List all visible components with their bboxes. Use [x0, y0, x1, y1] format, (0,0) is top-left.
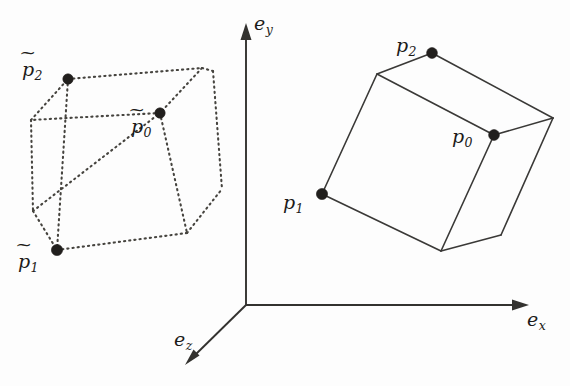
dashed-edge-top-left — [31, 79, 68, 120]
solid-edge-vert-mid — [441, 135, 494, 251]
solid-edge-top-front — [432, 53, 553, 118]
solid-edge-top-back — [377, 74, 494, 135]
point-label-p0-tilde-sub: 0 — [144, 125, 152, 140]
point-label-p2-tilde-sub: 2 — [35, 68, 43, 83]
point-label-p1-base: p — [283, 191, 295, 213]
point-label-p1-tilde-sub: 1 — [31, 260, 39, 275]
point-label-p2: p2 — [396, 36, 417, 59]
solid-edge-vert-left — [322, 74, 377, 194]
axis-label-ez-base: e — [174, 328, 185, 350]
axis-group — [185, 23, 529, 365]
point-label-p2-sub: 2 — [409, 44, 417, 59]
point-label-p2-tilde: p2 — [22, 60, 43, 83]
vertex-dot-p0-tilde — [155, 108, 165, 118]
original-cube-edges — [31, 68, 222, 256]
dashed-edge-vert-far-right — [213, 71, 222, 189]
point-label-p0-tilde-base: p — [131, 115, 143, 137]
vertex-dot-p2-tilde — [63, 74, 73, 84]
axis-label-ey-base: e — [254, 12, 265, 34]
axis-label-ey-sub: y — [266, 22, 273, 37]
axis-ez-line — [193, 305, 246, 357]
transformed-cube-edges — [316, 48, 553, 251]
point-label-p0-sub: 0 — [465, 135, 473, 150]
axis-label-ex: ex — [527, 310, 546, 332]
point-label-p1: p1 — [283, 193, 304, 216]
vertex-dot-p0 — [489, 130, 500, 141]
axis-ey-arrowhead — [241, 23, 252, 40]
solid-edge-vert-right — [501, 118, 553, 235]
point-label-p1-tilde: p1 — [18, 252, 39, 275]
dashed-edge-top-front — [68, 68, 202, 79]
vertex-dot-p1-tilde — [51, 244, 62, 255]
solid-edge-bot-left — [322, 194, 441, 251]
axis-label-ez: ez — [174, 330, 192, 352]
dashed-edge-vert-back-left — [31, 120, 33, 211]
point-label-p0: p0 — [452, 127, 473, 150]
dashed-edge-bot-left — [33, 211, 57, 250]
vertex-dot-p2 — [427, 48, 438, 59]
axis-label-ex-base: e — [527, 308, 538, 330]
solid-edge-top-right — [494, 118, 553, 135]
point-label-p2-tilde-base: p — [22, 58, 34, 80]
point-label-p0-base: p — [452, 125, 464, 147]
dashed-edge-vert-front-left — [57, 79, 68, 250]
point-label-p0-tilde: p0 — [131, 117, 152, 140]
point-label-p1-sub: 1 — [296, 201, 304, 216]
dashed-edge-bot-front — [57, 233, 187, 250]
axis-label-ez-sub: z — [186, 338, 193, 353]
solid-edge-bot-right — [441, 235, 501, 251]
vertex-dot-p1 — [316, 188, 327, 199]
dashed-edge-top-right — [160, 68, 202, 113]
axis-label-ex-sub: x — [539, 318, 546, 333]
dashed-edge-bot-right — [187, 189, 222, 233]
dashed-edge-top-far-right — [202, 68, 213, 71]
point-label-p2-base: p — [396, 34, 408, 56]
dashed-edge-vert-mid — [160, 113, 187, 233]
point-label-p1-tilde-base: p — [18, 250, 30, 272]
axis-label-ey: ey — [254, 14, 273, 36]
figure-canvas: ey ex ez p2 p0 p1 p2 p0 p1 — [0, 0, 570, 386]
